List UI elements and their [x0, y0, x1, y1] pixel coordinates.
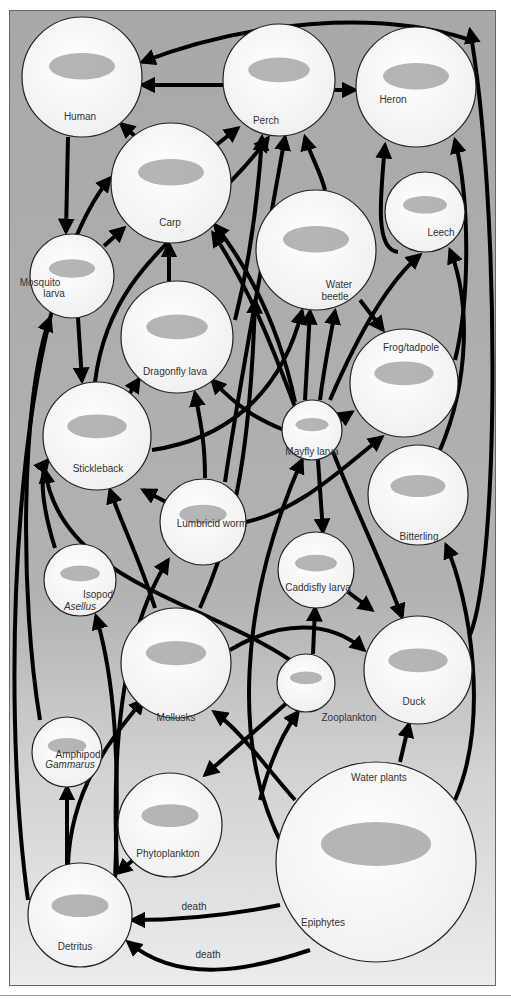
mosquito-larva-label-secondary: larva — [43, 288, 65, 299]
phytoplankton-label: Phytoplankton — [136, 848, 199, 859]
node-isopod-asellus: IsopodAsellus — [44, 544, 116, 616]
water-plants-label-secondary: Epiphytes — [301, 917, 345, 928]
node-perch: Perch — [223, 24, 335, 136]
node-caddisfly-larva: Caddisfly larva — [278, 532, 354, 608]
water-beetle-illustration-icon — [283, 226, 349, 252]
amphipod-gammarus-label-secondary: Gammarus — [45, 759, 94, 770]
bitterling-illustration-icon — [391, 475, 446, 497]
mayfly-larva-label: Mayfly larva — [285, 446, 339, 457]
dragonfly-larva-illustration-icon — [146, 315, 208, 340]
node-water-plants: Water plantsEpiphytes — [276, 762, 476, 962]
food-web-canvas: HumanPerchHeronCarpLeechWaterbeetleMosqu… — [0, 0, 511, 1003]
perch-label: Perch — [253, 115, 279, 126]
caddisfly-larva-illustration-icon — [295, 555, 337, 572]
mosquito-larva-illustration-icon — [49, 259, 95, 277]
node-human: Human — [22, 17, 142, 137]
mayfly-larva-illustration-icon — [296, 418, 329, 431]
arrow-zooplankton-to-caddisfly-larva — [313, 608, 315, 654]
node-detritus: Detritus — [28, 863, 132, 967]
node-water-beetle: Waterbeetle — [256, 190, 376, 310]
zooplankton-label: Zooplankton — [321, 712, 376, 723]
duck-illustration-icon — [388, 648, 447, 672]
mosquito-larva-label: Mosquito — [20, 277, 61, 288]
frog-tadpole-illustration-icon — [374, 361, 433, 385]
isopod-asellus-illustration-icon — [60, 566, 100, 582]
detritus-illustration-icon — [51, 894, 108, 917]
carp-label: Carp — [159, 217, 181, 228]
lumbricid-worm-label: Lumbricid worm — [177, 518, 248, 529]
human-illustration-icon — [49, 53, 115, 79]
leech-label: Leech — [427, 227, 454, 238]
mollusks-label: Mollusks — [157, 712, 196, 723]
phytoplankton-illustration-icon — [141, 804, 198, 827]
duck-label: Duck — [403, 696, 427, 707]
node-bitterling: Bitterling — [368, 445, 468, 545]
water-plants-illustration-icon — [321, 822, 431, 866]
human-label: Human — [64, 111, 96, 122]
food-web-diagram: HumanPerchHeronCarpLeechWaterbeetleMosqu… — [0, 0, 511, 1003]
stickleback-illustration-icon — [67, 414, 126, 438]
isopod-asellus-label: Isopod — [83, 589, 113, 600]
zooplankton-illustration-icon — [290, 671, 322, 684]
carp-illustration-icon — [138, 159, 204, 185]
node-lumbricid-worm: Lumbricid worm — [160, 479, 247, 565]
heron-label: Heron — [379, 94, 406, 105]
perch-illustration-icon — [248, 58, 310, 83]
caddisfly-larva-label: Caddisfly larva — [285, 582, 351, 593]
frog-tadpole-label: Frog/tadpole — [383, 342, 440, 353]
water-beetle-label: Water — [326, 279, 353, 290]
node-mayfly-larva: Mayfly larva — [282, 400, 342, 460]
node-carp: Carp — [111, 123, 231, 243]
edge-label-death_2: death — [195, 949, 220, 960]
node-frog-tadpole: Frog/tadpole — [350, 329, 458, 437]
mollusks-illustration-icon — [146, 641, 207, 665]
water-plants-label: Water plants — [351, 772, 407, 783]
node-stickleback: Stickleback — [43, 382, 151, 490]
node-amphipod-gammarus: AmphipodGammarus — [32, 717, 102, 787]
detritus-label: Detritus — [58, 941, 92, 952]
dragonfly-larva-label: Dragonfly lava — [143, 366, 207, 377]
node-phytoplankton: Phytoplankton — [118, 773, 222, 877]
water-beetle-label-secondary: beetle — [321, 291, 349, 302]
arrow-human-to-mosquito-larva — [66, 137, 68, 232]
node-duck: Duck — [364, 616, 472, 724]
leech-illustration-icon — [403, 196, 447, 214]
bottom-divider — [0, 995, 511, 996]
stickleback-label: Stickleback — [73, 463, 125, 474]
isopod-asellus-label-secondary: Asellus — [63, 601, 96, 612]
edge-label-death_1: death — [181, 901, 206, 912]
node-dragonfly-larva: Dragonfly lava — [121, 281, 233, 393]
node-heron: Heron — [356, 27, 476, 147]
node-leech: Leech — [385, 172, 465, 252]
bitterling-label: Bitterling — [400, 531, 439, 542]
heron-illustration-icon — [383, 63, 449, 89]
